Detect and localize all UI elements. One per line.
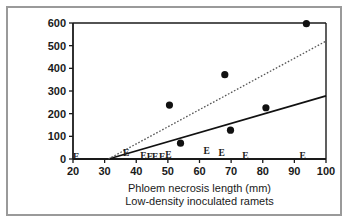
e-marker: E [73, 152, 79, 162]
data-point [262, 104, 269, 111]
y-tick-label: 0 [60, 153, 66, 165]
e-marker: E [218, 148, 224, 158]
e-marker: E [204, 146, 210, 156]
e-marker: E [152, 152, 158, 162]
x-tick-label: 70 [225, 165, 237, 177]
y-tick-label: 300 [48, 85, 66, 97]
x-tick-label: 30 [99, 165, 111, 177]
y-tick-label: 600 [48, 17, 66, 29]
x-tick-label: 20 [67, 165, 79, 177]
x-tick-label: 40 [130, 165, 142, 177]
e-marker: E [123, 148, 129, 158]
x-tick-label: 90 [288, 165, 300, 177]
x-tick-label: 50 [162, 165, 174, 177]
x-tick-label: 100 [317, 165, 335, 177]
figure-container: 01002003004005006002030405060708090100EE… [0, 0, 348, 222]
x-tick-label: 80 [257, 165, 269, 177]
dotted-regression-line [108, 41, 326, 159]
y-tick-label: 200 [48, 108, 66, 120]
plot-frame [73, 23, 326, 159]
y-tick-label: 500 [48, 40, 66, 52]
y-tick-label: 100 [48, 130, 66, 142]
scatter-plot: 01002003004005006002030405060708090100EE… [0, 0, 348, 222]
x-axis-subtitle: Low-density inoculated ramets [125, 195, 274, 207]
data-point [227, 127, 234, 134]
e-marker: E [165, 150, 171, 160]
x-axis-title: Phloem necrosis length (mm) [128, 182, 271, 194]
y-tick-label: 400 [48, 62, 66, 74]
y-axis: 0100200300400500600 [48, 17, 73, 165]
data-point [221, 71, 228, 78]
data-point [166, 101, 173, 108]
data-point [303, 20, 310, 27]
data-point [177, 140, 184, 147]
solid-regression-line [108, 96, 326, 159]
e-marker: E [242, 151, 248, 161]
series-filled-circle-points [166, 20, 310, 147]
e-marker: E [299, 151, 305, 161]
x-tick-label: 60 [193, 165, 205, 177]
x-axis: 2030405060708090100 [67, 159, 335, 177]
